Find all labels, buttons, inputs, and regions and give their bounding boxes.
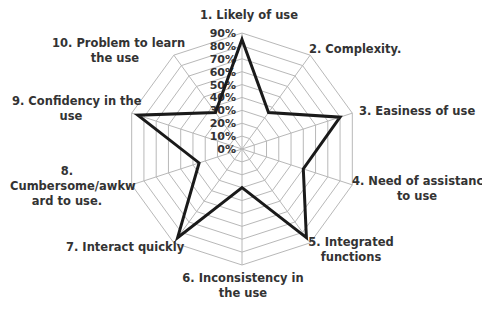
axis-label-6: 6. Inconsistency in the use xyxy=(182,271,304,301)
tick-label: 20% xyxy=(210,117,236,130)
axis-label-10: 10. Problem to learn the use xyxy=(52,36,178,66)
axis-label-2: 2. Complexity. xyxy=(309,42,409,57)
tick-label: 10% xyxy=(210,130,236,143)
axis-label-8: 8. Cumbersome/awkw ard to use. xyxy=(10,164,124,209)
tick-label: 90% xyxy=(210,27,236,40)
grid-spoke xyxy=(242,113,352,149)
tick-label: 30% xyxy=(210,104,236,117)
axis-label-5: 5. Integrated functions xyxy=(306,235,396,265)
tick-label: 0% xyxy=(217,143,236,156)
axis-label-1: 1. Likely of use xyxy=(200,8,284,23)
tick-label: 80% xyxy=(210,40,236,53)
axis-label-4: 4. Need of assistance to use xyxy=(352,174,482,204)
axis-label-7: 7. Interact quickly xyxy=(66,240,176,255)
data-series-polygon xyxy=(138,39,340,237)
grid-spoke xyxy=(242,149,352,185)
axis-label-3: 3. Easiness of use xyxy=(359,104,479,119)
axis-label-9: 9. Confidency in the use xyxy=(12,94,130,124)
